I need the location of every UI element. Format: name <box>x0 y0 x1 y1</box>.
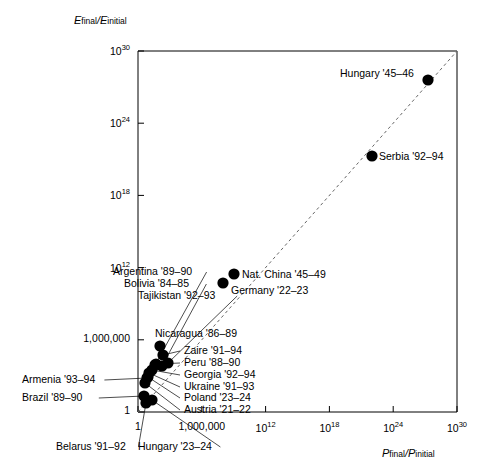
point-label: Belarus '91–92 <box>56 440 126 452</box>
data-point-marker <box>366 150 377 161</box>
point-label: Hungary '23–24 <box>138 440 212 452</box>
x-tick-label-4: 1024 <box>383 420 403 434</box>
point-label: Austria '21–22 <box>184 403 251 415</box>
data-point-marker <box>146 394 157 405</box>
data-point-marker <box>422 74 433 85</box>
point-label: Peru '88–90 <box>184 356 240 368</box>
point-label: Nicaragua '86–89 <box>155 327 237 339</box>
x-tick-label-3: 1018 <box>319 420 339 434</box>
point-label: Poland '23–24 <box>184 391 251 403</box>
point-label: Brazil '89–90 <box>22 391 82 403</box>
x-tick-label-5: 1030 <box>447 420 467 434</box>
point-label: Bolivia '84–85 <box>124 277 189 289</box>
x-tick-label-2: 1012 <box>256 420 276 434</box>
y-tick-label-0: 1 <box>124 404 130 416</box>
x-tick-label-1: 1,000,000 <box>178 420 225 432</box>
y-tick-label-1: 1,000,000 <box>83 332 130 344</box>
point-label: Serbia '92–94 <box>379 150 443 162</box>
point-label: Armenia '93–94 <box>22 373 95 385</box>
data-point-marker <box>141 372 152 383</box>
y-tick-label-4: 1024 <box>110 115 130 129</box>
data-point-marker <box>217 277 228 288</box>
x-tick-label-0: 1 <box>135 420 141 432</box>
y-axis-label: Efinal/Einitial <box>74 14 127 26</box>
data-point-marker <box>228 268 239 279</box>
point-label: Hungary '45–46 <box>340 67 414 79</box>
point-label: Nat. China '45–49 <box>242 268 326 280</box>
point-label: Tajikistan '92–93 <box>138 289 215 301</box>
point-label: Argentina '89–90 <box>113 265 192 277</box>
point-label: Georgia '92–94 <box>184 368 255 380</box>
point-label: Germany '22–23 <box>231 284 308 296</box>
x-axis-label: Pfinal/Pinitial <box>382 447 435 459</box>
y-tick-label-5: 1030 <box>110 43 130 57</box>
point-label: Zaire '91–94 <box>184 344 242 356</box>
data-point-marker <box>157 349 168 360</box>
y-tick-label-3: 1018 <box>110 187 130 201</box>
